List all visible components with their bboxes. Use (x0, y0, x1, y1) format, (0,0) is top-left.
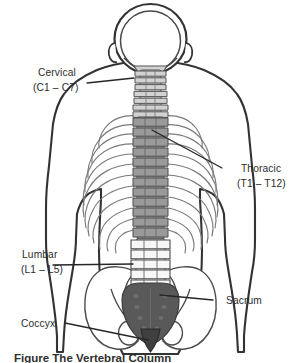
label-thoracic-range: (T1 – T12) (237, 178, 286, 189)
figure-caption-group: Figure The Vertebral Column (14, 352, 171, 363)
vertebra-c4 (134, 91, 167, 96)
vertebra-t12 (133, 228, 168, 237)
label-lumbar-range: (L1 – L5) (21, 264, 63, 275)
figure-caption: Figure The Vertebral Column (14, 352, 171, 363)
vertebra-t10 (133, 208, 168, 216)
sacral-foramen-r2 (161, 305, 166, 309)
vertebra-l3 (131, 260, 170, 269)
vertebra-t6 (133, 168, 168, 176)
label-thoracic-name: Thoracic (241, 163, 281, 174)
cervical-vertebrae (133, 71, 168, 117)
vertebra-t11 (133, 218, 168, 226)
sacral-foramen-l2 (134, 305, 139, 309)
vertebral-column-figure: Cervical (C1 – C7) Thoracic (T1 – T12) L… (0, 0, 301, 363)
label-cervical-range: (C1 – C7) (33, 82, 79, 93)
sacral-foramen-l3 (138, 316, 143, 320)
sacral-foramen-r3 (159, 316, 164, 320)
vertebra-c3 (135, 85, 166, 90)
vertebra-t2 (133, 128, 168, 136)
anatomy-diagram-svg: Cervical (C1 – C7) Thoracic (T1 – T12) L… (0, 0, 301, 363)
vertebra-l1 (131, 240, 170, 249)
vertebra-t4 (133, 148, 168, 156)
vertebra-l4 (131, 270, 170, 279)
vertebra-c6 (133, 105, 168, 110)
vertebra-t8 (133, 188, 168, 196)
label-cervical-name: Cervical (38, 67, 76, 78)
skull-outline (121, 11, 181, 71)
label-lumbar-name: Lumbar (22, 249, 58, 260)
vertebra-t7 (133, 178, 168, 186)
lumbar-vertebrae (131, 240, 170, 288)
sacral-foramen-l1 (133, 294, 138, 298)
vertebra-t3 (133, 138, 168, 146)
vertebra-c2 (135, 78, 166, 83)
label-sacrum-name: Sacrum (226, 295, 262, 306)
vertebra-t9 (133, 198, 168, 206)
vertebra-c1 (135, 71, 166, 76)
vertebra-t1 (133, 118, 168, 126)
label-coccyx-name: Coccyx (21, 318, 55, 329)
vertebra-l2 (131, 250, 170, 259)
vertebra-t5 (133, 158, 168, 166)
lumbar-region (131, 239, 170, 288)
vertebra-c5 (134, 98, 167, 103)
